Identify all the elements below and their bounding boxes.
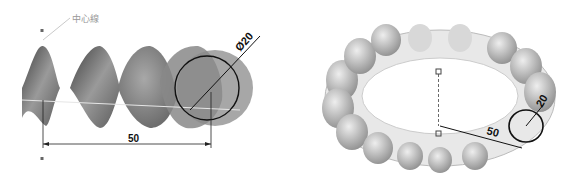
diameter-dimension: Ø20 (233, 30, 256, 53)
toroidal-helix-drawing: 50 20 (290, 0, 582, 186)
helix-lobe (22, 46, 60, 126)
toroidal-helix-figure: 50 20 (290, 0, 582, 186)
centerline-label: 中心線 (72, 13, 99, 24)
straight-helix-figure: 中心線 Ø20 50 (0, 0, 290, 186)
arrowhead (205, 142, 211, 146)
straight-helix-drawing: 中心線 Ø20 50 (0, 0, 290, 186)
leader-line (43, 18, 70, 40)
endpoint-marker (41, 157, 44, 160)
arrowhead (43, 142, 49, 146)
endpoint-marker (41, 29, 44, 32)
helix-lobe (70, 46, 120, 128)
length-dimension: 50 (128, 133, 140, 144)
